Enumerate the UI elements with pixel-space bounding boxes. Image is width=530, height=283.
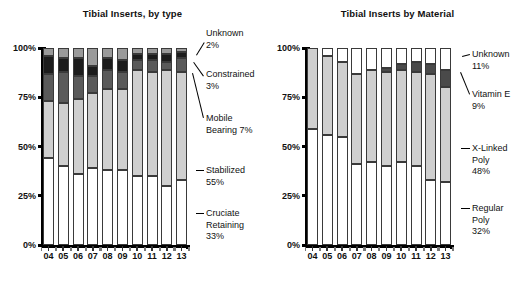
bar-12[interactable] (425, 48, 436, 245)
plot-area-left: 0%25%50%75%100%04050607080910111213 (41, 48, 189, 245)
bar-segment-unknown (425, 48, 436, 64)
bar-segment-regular-poly (322, 135, 333, 245)
bar-segment-unknown (176, 48, 187, 52)
bar-segment-unknown (102, 48, 113, 58)
x-axis-minor-tick (71, 247, 73, 251)
bar-segment-regular-poly (440, 182, 451, 245)
bar-12[interactable] (161, 48, 172, 245)
chart-panel-tibial-inserts-by-type: Tibial Inserts, by type 0%25%50%75%100%0… (0, 0, 265, 283)
bar-13[interactable] (440, 48, 451, 245)
x-axis-label-13: 13 (441, 251, 451, 261)
bar-segment-vitamin-e (425, 64, 436, 74)
bar-segment-constrained (87, 66, 98, 76)
bar-06[interactable] (337, 48, 348, 245)
callout-leader-line (193, 62, 204, 77)
bar-09[interactable] (381, 48, 392, 245)
bar-segment-unknown (337, 48, 348, 62)
bar-segment-regular-poly (307, 129, 318, 245)
bar-segment-vitamin-e (411, 62, 422, 72)
y-axis-label: 50% (18, 142, 36, 152)
bar-segment-cruciate-retaining (73, 174, 84, 245)
x-axis-label-05: 05 (322, 251, 332, 261)
bar-11[interactable] (147, 48, 158, 245)
bar-10[interactable] (396, 48, 407, 245)
page-title-right: Tibial Inserts by Material (265, 8, 530, 19)
x-axis-minor-tick (364, 247, 366, 251)
bar-13[interactable] (176, 48, 187, 245)
bar-segment-unknown (351, 48, 362, 74)
bar-segment-stabilized (132, 70, 143, 176)
bar-07[interactable] (351, 48, 362, 245)
bar-segment-stabilized (58, 103, 69, 166)
x-axis-label-09: 09 (381, 251, 391, 261)
x-axis-minor-tick (452, 247, 454, 251)
bar-segment-x-linked-poly (440, 87, 451, 182)
x-axis-label-11: 11 (147, 251, 157, 261)
bar-segment-constrained (161, 54, 172, 62)
bar-segment-regular-poly (381, 166, 392, 245)
bar-segment-vitamin-e (381, 68, 392, 72)
page-title-left: Tibial Inserts, by type (0, 8, 265, 19)
bar-segment-stabilized (117, 89, 128, 170)
bar-segment-x-linked-poly (307, 48, 318, 129)
bar-segment-cruciate-retaining (102, 170, 113, 245)
x-axis-minor-tick (320, 247, 322, 251)
bar-08[interactable] (366, 48, 377, 245)
x-axis-label-10: 10 (132, 251, 142, 261)
bar-segment-x-linked-poly (351, 74, 362, 165)
x-axis-label-06: 06 (73, 251, 83, 261)
bar-segment-stabilized (176, 72, 187, 180)
bar-segment-unknown (366, 48, 377, 70)
y-axis-label: 0% (287, 240, 300, 250)
bar-segment-unknown (396, 48, 407, 64)
y-axis-label: 25% (18, 191, 36, 201)
bar-segment-mobile-bearing (58, 72, 69, 104)
bar-segment-stabilized (73, 99, 84, 174)
bar-segment-mobile-bearing (102, 70, 113, 90)
bar-segment-unknown (43, 48, 54, 56)
x-axis-label-09: 09 (117, 251, 127, 261)
bar-08[interactable] (102, 48, 113, 245)
bar-04[interactable] (43, 48, 54, 245)
bar-segment-constrained (147, 54, 158, 60)
x-axis-label-13: 13 (177, 251, 187, 261)
x-axis-minor-tick (56, 247, 58, 251)
y-axis-label: 75% (282, 92, 300, 102)
bar-segment-unknown (132, 48, 143, 54)
bar-09[interactable] (117, 48, 128, 245)
bar-segment-cruciate-retaining (176, 180, 187, 245)
bar-07[interactable] (87, 48, 98, 245)
bar-06[interactable] (73, 48, 84, 245)
bar-segment-regular-poly (396, 162, 407, 245)
x-axis-minor-tick (379, 247, 381, 251)
bar-segment-vitamin-e (440, 70, 451, 88)
callout-leader-line (462, 54, 470, 57)
bar-11[interactable] (411, 48, 422, 245)
bar-segment-stabilized (161, 70, 172, 186)
callout-x-linked-poly: X-Linked Poly 48% (472, 143, 508, 178)
bar-segment-mobile-bearing (87, 76, 98, 94)
x-axis-minor-tick (349, 247, 351, 251)
x-axis-label-11: 11 (411, 251, 421, 261)
bar-10[interactable] (132, 48, 143, 245)
chart-panel-tibial-inserts-by-material: Tibial Inserts by Material 0%25%50%75%10… (265, 0, 530, 283)
callout-leader-line (196, 170, 204, 171)
bar-segment-x-linked-poly (381, 72, 392, 167)
bar-segment-stabilized (87, 93, 98, 168)
bar-segment-regular-poly (337, 137, 348, 245)
x-axis-minor-tick (174, 247, 176, 251)
bar-05[interactable] (322, 48, 333, 245)
callout-unknown: Unknown 2% (206, 28, 244, 51)
x-axis-minor-tick (100, 247, 102, 251)
bar-segment-cruciate-retaining (58, 166, 69, 245)
callout-unknown: Unknown 11% (472, 49, 510, 72)
x-axis-minor-tick (41, 247, 43, 251)
bar-segment-stabilized (43, 101, 54, 158)
y-axis-label: 100% (13, 43, 36, 53)
bar-segment-x-linked-poly (322, 56, 333, 135)
bar-segment-unknown (161, 48, 172, 54)
bar-04[interactable] (307, 48, 318, 245)
bar-05[interactable] (58, 48, 69, 245)
y-axis-label: 25% (282, 191, 300, 201)
x-axis-minor-tick (85, 247, 87, 251)
